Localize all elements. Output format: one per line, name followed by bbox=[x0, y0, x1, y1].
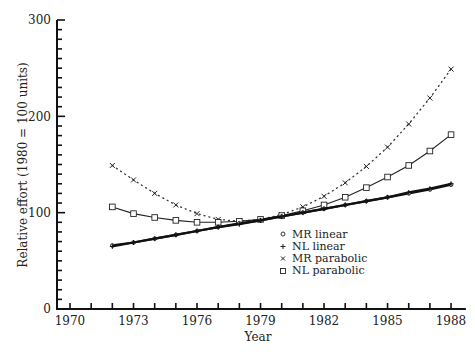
legend-item-nl-parabolic: NL parabolic bbox=[281, 264, 365, 277]
x-tick-label-1988: 1988 bbox=[436, 314, 467, 328]
x-tick-label-1976: 1976 bbox=[182, 314, 213, 328]
x-tick-label-1982: 1982 bbox=[309, 314, 340, 328]
x-marker-icon bbox=[195, 211, 200, 216]
series-nl-linear bbox=[110, 181, 454, 249]
square-marker-icon bbox=[152, 215, 158, 221]
plus-marker-icon bbox=[173, 232, 178, 237]
x-tick-labels: 1970 1973 1976 1979 1982 1985 1988 bbox=[55, 314, 467, 328]
square-marker-icon bbox=[194, 220, 200, 226]
circle-marker-icon bbox=[281, 232, 285, 236]
square-marker-icon bbox=[448, 132, 454, 138]
series-line bbox=[112, 69, 451, 221]
square-marker-icon bbox=[364, 185, 370, 191]
legend: MR linear NL linear MR parabolic NL para… bbox=[281, 228, 368, 277]
x-tick-label-1979: 1979 bbox=[245, 314, 276, 328]
x-marker-icon bbox=[364, 164, 369, 169]
x-marker-icon bbox=[110, 163, 115, 168]
axes bbox=[56, 20, 466, 309]
x-axis-title: Year bbox=[244, 330, 272, 344]
plus-marker-icon bbox=[195, 228, 200, 233]
y-tick-label-300: 300 bbox=[28, 13, 51, 27]
series-line bbox=[112, 135, 451, 223]
y-tick-labels: 0 100 200 300 bbox=[28, 13, 51, 316]
x-marker-icon bbox=[343, 180, 348, 185]
square-marker-icon bbox=[281, 269, 286, 274]
y-tick-label-0: 0 bbox=[43, 302, 51, 316]
x-marker-icon bbox=[385, 145, 390, 150]
y-tick-label-100: 100 bbox=[28, 206, 51, 220]
x-tick-label-1970: 1970 bbox=[55, 314, 86, 328]
square-marker-icon bbox=[131, 211, 137, 217]
x-tick-label-1973: 1973 bbox=[118, 314, 149, 328]
square-marker-icon bbox=[385, 174, 391, 180]
square-marker-icon bbox=[110, 204, 116, 210]
series-mr-parabolic bbox=[110, 67, 454, 224]
x-marker-icon bbox=[427, 96, 432, 101]
square-marker-icon bbox=[215, 220, 221, 226]
x-marker-icon bbox=[406, 122, 411, 127]
series-nl-parabolic bbox=[110, 132, 454, 225]
y-axis-title: Relative effort (1980 = 100 units) bbox=[16, 62, 30, 267]
square-marker-icon bbox=[342, 194, 348, 200]
x-marker-icon bbox=[131, 177, 136, 182]
x-marker-icon bbox=[281, 257, 285, 261]
x-tick-label-1985: 1985 bbox=[372, 314, 403, 328]
series-layer bbox=[110, 67, 454, 249]
line-chart: 0 100 200 300 1970 1973 1976 1979 1982 1… bbox=[0, 0, 475, 355]
plus-marker-icon bbox=[364, 199, 369, 204]
plus-marker-icon bbox=[131, 240, 136, 245]
square-marker-icon bbox=[427, 148, 433, 154]
plus-marker-icon bbox=[385, 195, 390, 200]
x-marker-icon bbox=[322, 194, 327, 199]
x-marker-icon bbox=[449, 67, 454, 72]
x-marker-icon bbox=[173, 202, 178, 207]
plus-marker-icon bbox=[152, 236, 157, 241]
plus-marker-icon bbox=[343, 202, 348, 207]
y-tick-label-200: 200 bbox=[28, 110, 51, 124]
square-marker-icon bbox=[406, 163, 412, 169]
x-marker-icon bbox=[152, 191, 157, 196]
square-marker-icon bbox=[173, 218, 179, 224]
plus-marker-icon bbox=[281, 244, 286, 249]
legend-label: NL parabolic bbox=[292, 264, 365, 277]
